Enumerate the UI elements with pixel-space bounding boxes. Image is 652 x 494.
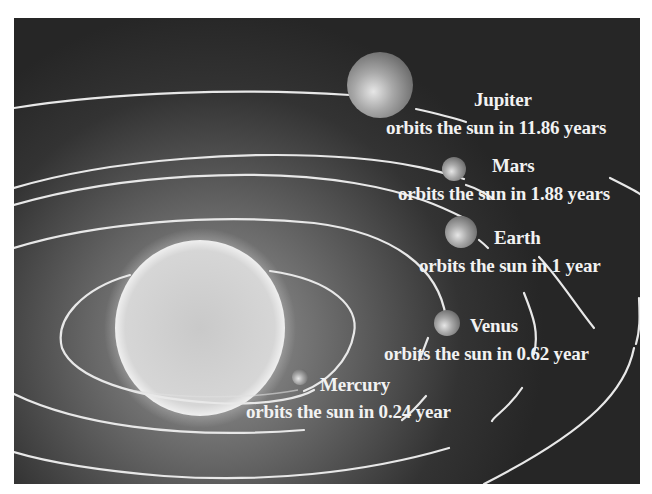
solar-system-diagram: Jupiter orbits the sun in 11.86 years Ma… (14, 18, 640, 484)
label-mercury-caption: orbits the sun in 0.24 year (246, 402, 451, 421)
planet-venus (434, 310, 460, 336)
planet-earth (445, 216, 477, 248)
label-venus-name: Venus (470, 316, 518, 335)
label-earth-caption: orbits the sun in 1 year (419, 256, 601, 275)
label-jupiter-name: Jupiter (474, 90, 532, 109)
planet-jupiter (347, 52, 413, 118)
planet-mars (442, 157, 466, 181)
sun (115, 240, 285, 416)
label-mars-name: Mars (492, 156, 534, 175)
planet-mercury (292, 369, 308, 385)
label-venus-caption: orbits the sun in 0.62 year (384, 344, 589, 363)
label-mercury-name: Mercury (320, 375, 390, 394)
label-jupiter-caption: orbits the sun in 11.86 years (386, 118, 606, 137)
label-mars-caption: orbits the sun in 1.88 years (398, 184, 610, 203)
label-earth-name: Earth (494, 228, 541, 247)
